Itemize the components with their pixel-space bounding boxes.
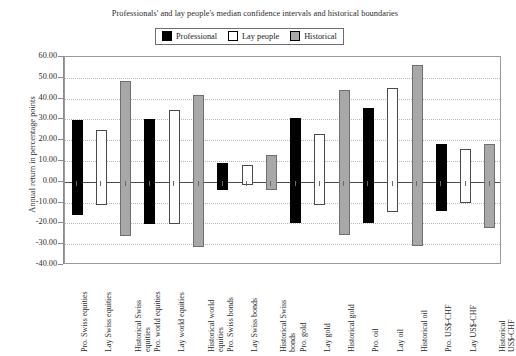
x-axis-label: Pro. US$-CHF: [444, 304, 453, 352]
y-tick-label: 30.00: [11, 113, 57, 122]
x-tick-mark: [465, 181, 466, 186]
y-tick-mark: [58, 139, 63, 140]
x-axis-label: Pro. Swiss equities: [80, 291, 89, 352]
y-tick-label: -20.00: [11, 217, 57, 226]
y-tick-mark: [58, 202, 63, 203]
x-axis-label: Historical world equities: [207, 300, 225, 352]
x-axis-label: Pro. world equities: [153, 291, 162, 352]
y-tick-mark: [58, 118, 63, 119]
y-tick-mark: [58, 243, 63, 244]
x-tick-mark: [489, 181, 490, 186]
bar-lay: [96, 130, 107, 205]
x-tick-mark: [392, 181, 393, 186]
y-tick-mark: [58, 77, 63, 78]
bar-professional: [217, 163, 228, 190]
x-axis-label: Historical Swiss equities: [134, 300, 152, 352]
bar-lay: [314, 134, 325, 205]
x-tick-mark: [295, 181, 296, 186]
bar-historical: [339, 90, 350, 235]
chart-legend: Professional Lay people Historical: [155, 28, 344, 45]
legend-swatch-lay-people: [228, 31, 238, 41]
y-tick-label: 40.00: [11, 93, 57, 102]
x-tick-mark: [100, 181, 101, 186]
x-axis-label: Lay world equities: [177, 292, 186, 352]
x-tick-mark: [343, 181, 344, 186]
x-axis-label: Historical US$-CHF: [498, 320, 516, 352]
x-axis-label: Lay Swiss equities: [104, 292, 113, 352]
bar-lay: [242, 165, 253, 185]
x-axis-label: Pro. gold: [299, 323, 308, 352]
gridline: [65, 244, 500, 245]
x-axis-label: Lay Swiss bonds: [250, 298, 259, 352]
x-axis-label: Pro. Swiss bonds: [226, 297, 235, 352]
legend-item-professional: Professional: [162, 31, 217, 41]
bar-professional: [436, 144, 447, 211]
bar-lay: [387, 88, 398, 212]
legend-swatch-professional: [162, 31, 172, 41]
x-tick-mark: [222, 181, 223, 186]
y-tick-mark: [58, 181, 63, 182]
x-axis-label: Historical Swiss bonds: [279, 300, 297, 352]
bar-historical: [120, 81, 131, 236]
x-axis-label: Lay oil: [396, 329, 405, 352]
x-tick-mark: [125, 181, 126, 186]
y-tick-label: 20.00: [11, 134, 57, 143]
bar-professional: [363, 108, 374, 223]
bar-professional: [290, 118, 301, 223]
x-axis-label: Historical gold: [347, 304, 356, 352]
x-axis-label: Pro. oil: [371, 328, 380, 352]
bar-historical: [484, 144, 495, 227]
bar-lay: [460, 149, 471, 203]
x-tick-mark: [76, 181, 77, 186]
x-axis-label: Lay US$-CHF: [469, 305, 478, 352]
x-tick-mark: [367, 181, 368, 186]
legend-swatch-historical: [290, 31, 300, 41]
y-tick-label: -30.00: [11, 238, 57, 247]
x-tick-mark: [173, 181, 174, 186]
x-tick-mark: [270, 181, 271, 186]
y-tick-mark: [58, 56, 63, 57]
bar-historical: [193, 95, 204, 247]
x-tick-mark: [416, 181, 417, 186]
y-tick-mark: [58, 98, 63, 99]
y-tick-label: 50.00: [11, 72, 57, 81]
y-tick-label: -40.00: [11, 259, 57, 268]
x-tick-mark: [246, 181, 247, 186]
legend-label-professional: Professional: [176, 32, 217, 41]
y-tick-label: 60.00: [11, 51, 57, 60]
legend-item-lay-people: Lay people: [228, 31, 279, 41]
gridline: [65, 78, 500, 79]
x-tick-mark: [198, 181, 199, 186]
legend-label-historical: Historical: [304, 32, 337, 41]
x-axis-label: Lay gold: [323, 323, 332, 352]
bar-professional: [144, 119, 155, 224]
x-tick-mark: [319, 181, 320, 186]
legend-label-lay-people: Lay people: [242, 32, 279, 41]
x-tick-mark: [149, 181, 150, 186]
chart-title: Professionals' and lay people's median c…: [0, 9, 510, 18]
bar-lay: [169, 110, 180, 224]
y-tick-label: 0.00: [11, 176, 57, 185]
x-tick-mark: [440, 181, 441, 186]
plot-area: [64, 56, 501, 264]
bar-historical: [266, 155, 277, 190]
x-axis-label: Historical oil: [420, 310, 429, 352]
bar-professional: [72, 120, 83, 215]
legend-item-historical: Historical: [290, 31, 337, 41]
y-tick-mark: [58, 264, 63, 265]
y-tick-label: 10.00: [11, 155, 57, 164]
y-tick-mark: [58, 222, 63, 223]
y-tick-label: -10.00: [11, 197, 57, 206]
bar-historical: [412, 65, 423, 246]
y-tick-mark: [58, 160, 63, 161]
